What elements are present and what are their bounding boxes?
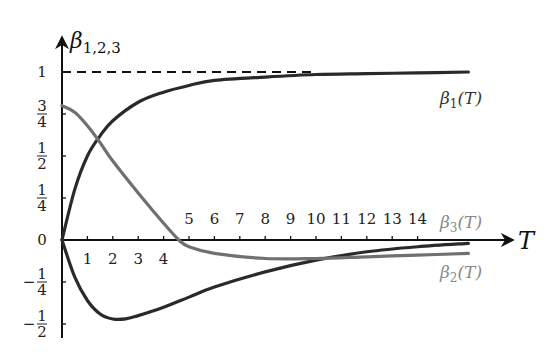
- x-tick-label: 6: [210, 210, 220, 228]
- svg-text:2: 2: [37, 323, 47, 341]
- y-axis-title: β1,2,3: [69, 28, 121, 57]
- x-tick-label: 12: [357, 210, 376, 228]
- svg-text:−: −: [23, 315, 36, 333]
- x-tick-label: 3: [133, 250, 143, 268]
- axes: [62, 38, 512, 338]
- series-label-1: β1(T): [439, 88, 482, 111]
- x-tick-label: 13: [383, 210, 402, 228]
- series-label-3: β3(T): [439, 212, 482, 235]
- series-line-2: [62, 240, 468, 319]
- x-tick-label: 2: [108, 250, 118, 268]
- x-tick-label: 7: [235, 210, 245, 228]
- x-tick-label: 4: [159, 250, 169, 268]
- svg-text:−: −: [23, 273, 36, 291]
- y-tick-label: 12: [37, 139, 47, 173]
- y-tick-label: 34: [37, 97, 47, 131]
- x-tick-label: 10: [306, 210, 325, 228]
- svg-text:0: 0: [37, 231, 47, 249]
- series-lines: [62, 72, 468, 319]
- svg-text:1: 1: [37, 63, 47, 81]
- svg-text:4: 4: [37, 281, 47, 299]
- x-tick-label: 1: [83, 250, 93, 268]
- y-tick-label: 14−: [23, 265, 47, 299]
- y-tick-label: 1: [37, 63, 47, 81]
- svg-text:4: 4: [37, 197, 47, 215]
- line-chart: β1,2,3T12345678910111213141341214014−12−…: [0, 0, 560, 356]
- x-tick-label: 8: [260, 210, 270, 228]
- x-tick-label: 11: [332, 210, 351, 228]
- y-tick-label: 14: [37, 181, 47, 215]
- series-label-2: β2(T): [439, 262, 482, 285]
- x-tick-label: 5: [184, 210, 194, 228]
- x-axis-title: T: [518, 227, 536, 255]
- x-tick-label: 9: [286, 210, 296, 228]
- y-tick-label: 0: [37, 231, 47, 249]
- series-line-3: [62, 106, 468, 259]
- svg-text:4: 4: [37, 113, 47, 131]
- svg-text:2: 2: [37, 155, 47, 173]
- x-tick-label: 14: [408, 210, 427, 228]
- y-tick-label: 12−: [23, 307, 47, 341]
